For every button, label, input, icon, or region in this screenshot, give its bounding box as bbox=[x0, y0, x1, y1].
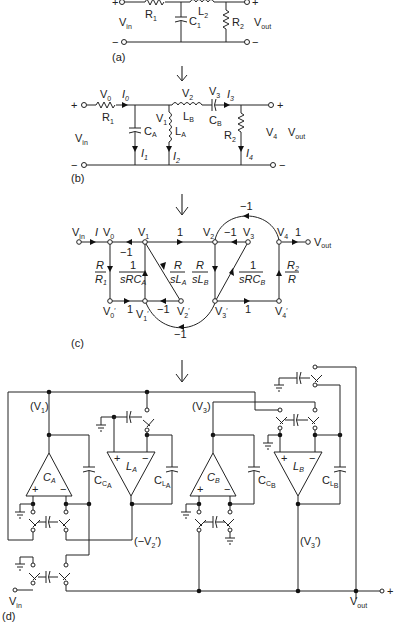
svg-text:V0′: V0′ bbox=[103, 305, 116, 319]
svg-text:R2: R2 bbox=[287, 259, 299, 272]
panel-label-a: (a) bbox=[112, 51, 125, 63]
svg-text:Vout: Vout bbox=[288, 126, 305, 140]
node-v1 bbox=[143, 240, 148, 245]
svg-text:sRCA: sRCA bbox=[120, 273, 146, 286]
svg-text:L2: L2 bbox=[198, 5, 208, 19]
svg-text:Vout: Vout bbox=[254, 16, 271, 30]
svg-text:1: 1 bbox=[127, 303, 133, 315]
node-v4-prime bbox=[277, 299, 282, 304]
node-v2-prime bbox=[179, 299, 184, 304]
svg-text:Vin: Vin bbox=[9, 595, 22, 609]
svg-text:−: − bbox=[71, 159, 77, 171]
svg-text:sLA: sLA bbox=[170, 273, 187, 286]
down-arrow-icon bbox=[176, 194, 188, 215]
svg-text:+: + bbox=[71, 99, 77, 111]
svg-text:−1: −1 bbox=[224, 226, 237, 238]
svg-text:R1: R1 bbox=[102, 111, 114, 125]
panel-label-b: (b) bbox=[71, 172, 84, 184]
svg-text:R1: R1 bbox=[145, 8, 157, 22]
svg-text:V3: V3 bbox=[209, 85, 220, 99]
vin-minus-sign: − bbox=[112, 36, 118, 48]
svg-text:R2: R2 bbox=[232, 16, 244, 30]
svg-text:CCA: CCA bbox=[94, 474, 112, 489]
down-arrow-icon bbox=[177, 66, 187, 81]
svg-text:I1: I1 bbox=[141, 147, 148, 161]
svg-text:V2: V2 bbox=[203, 226, 214, 240]
svg-text:V4: V4 bbox=[266, 126, 277, 140]
gain-r-over-r1: R R1 bbox=[95, 259, 107, 286]
svg-text:V3′: V3′ bbox=[215, 305, 228, 319]
resistor-r2-icon bbox=[223, 10, 229, 29]
svg-text:V4: V4 bbox=[277, 226, 288, 240]
panel-label-d: (d) bbox=[2, 610, 15, 622]
output-plus-terminal bbox=[245, 0, 250, 5]
svg-text:+: + bbox=[32, 483, 38, 495]
svg-text:(V1): (V1) bbox=[30, 400, 49, 414]
panel-label-c: (c) bbox=[71, 337, 84, 349]
svg-text:−1: −1 bbox=[174, 328, 187, 340]
gain-r-over-slb: R sLB bbox=[192, 259, 209, 286]
svg-text:−: − bbox=[142, 452, 148, 464]
svg-text:CB: CB bbox=[209, 114, 222, 127]
svg-text:(V3′): (V3′) bbox=[300, 535, 321, 549]
resistor-r1-icon bbox=[145, 0, 164, 5]
svg-text:sRCB: sRCB bbox=[239, 273, 265, 286]
gain-1-over-src-b: 1 sRCB bbox=[239, 259, 265, 286]
svg-text:Vin: Vin bbox=[119, 16, 132, 30]
svg-text:V0: V0 bbox=[100, 88, 111, 102]
vout-minus-sign: − bbox=[252, 36, 258, 48]
vout-plus-sign: + bbox=[252, 0, 258, 8]
svg-text:LB: LB bbox=[293, 460, 304, 473]
svg-text:CCB: CCB bbox=[258, 474, 276, 489]
svg-text:R: R bbox=[288, 273, 296, 285]
svg-text:(−V2′): (−V2′) bbox=[134, 535, 161, 549]
svg-text:I2: I2 bbox=[173, 150, 180, 164]
svg-text:V3: V3 bbox=[243, 226, 254, 240]
node-v0 bbox=[108, 240, 113, 245]
panel-b-labels: + − + − V0 I0 R1 CA V1 LA V2 LB V3 CB I3… bbox=[71, 85, 305, 184]
svg-text:CA: CA bbox=[144, 125, 157, 138]
filter-design-diagram: + − + − R1 L2 C1 R2 Vin Vout (a) bbox=[0, 0, 398, 633]
svg-text:1: 1 bbox=[245, 303, 251, 315]
svg-text:(V3): (V3) bbox=[192, 400, 211, 414]
svg-text:I0: I0 bbox=[122, 88, 129, 102]
svg-text:+: + bbox=[114, 452, 120, 464]
svg-text:I3: I3 bbox=[227, 88, 234, 102]
svg-text:1: 1 bbox=[130, 259, 136, 271]
input-minus-terminal bbox=[122, 40, 127, 45]
svg-text:I4: I4 bbox=[246, 147, 253, 161]
svg-text:R: R bbox=[196, 259, 204, 271]
svg-text:V1: V1 bbox=[138, 226, 149, 240]
svg-text:R: R bbox=[174, 259, 182, 271]
svg-text:V0: V0 bbox=[103, 226, 114, 240]
svg-text:V2′: V2′ bbox=[177, 305, 190, 319]
svg-text:+: + bbox=[277, 99, 283, 111]
svg-text:R1: R1 bbox=[95, 273, 107, 286]
svg-text:+: + bbox=[281, 452, 287, 464]
svg-text:LA: LA bbox=[126, 460, 137, 473]
svg-text:1: 1 bbox=[295, 226, 301, 238]
input-plus-terminal bbox=[120, 0, 125, 5]
svg-text:CB: CB bbox=[207, 471, 220, 484]
gain-r-over-sla: R sLA bbox=[170, 259, 187, 286]
output-minus-terminal bbox=[245, 40, 250, 45]
svg-text:V4′: V4′ bbox=[275, 305, 288, 319]
svg-text:−: − bbox=[60, 483, 66, 495]
svg-text:Vout: Vout bbox=[314, 236, 331, 249]
svg-text:Vout: Vout bbox=[350, 595, 367, 609]
svg-text:CA: CA bbox=[43, 471, 56, 484]
node-vout bbox=[306, 240, 311, 245]
svg-text:1: 1 bbox=[177, 226, 183, 238]
svg-text:−: − bbox=[309, 452, 315, 464]
node-v2 bbox=[213, 240, 218, 245]
svg-text:R2: R2 bbox=[224, 129, 236, 143]
svg-text:R: R bbox=[96, 259, 104, 271]
down-arrow-icon bbox=[176, 360, 188, 382]
panel-a-circuit bbox=[120, 0, 250, 45]
svg-text:−1: −1 bbox=[240, 200, 253, 212]
node-v3-prime bbox=[213, 299, 218, 304]
svg-text:−: − bbox=[224, 483, 230, 495]
node-v4 bbox=[277, 240, 282, 245]
panel-a-labels: + − + − R1 L2 C1 R2 Vin Vout (a) bbox=[112, 0, 271, 63]
svg-text:C1: C1 bbox=[189, 15, 201, 29]
